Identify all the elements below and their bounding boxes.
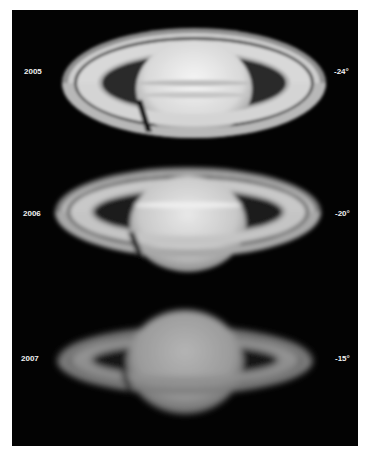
saturn-2007 xyxy=(57,310,313,414)
tilt-label-2006: -20° xyxy=(335,209,350,218)
saturn-2005 xyxy=(62,28,326,138)
year-label-2005: 2005 xyxy=(24,67,42,76)
tilt-label-2007: -15° xyxy=(335,354,350,363)
year-label-2006: 2006 xyxy=(23,209,41,218)
year-label-2007: 2007 xyxy=(21,354,39,363)
saturn-image-panel: 2005 -24° 2006 -20° 2007 -15° xyxy=(12,10,358,446)
saturn-images xyxy=(12,10,358,446)
tilt-label-2005: -24° xyxy=(334,67,349,76)
saturn-2006 xyxy=(55,167,321,272)
